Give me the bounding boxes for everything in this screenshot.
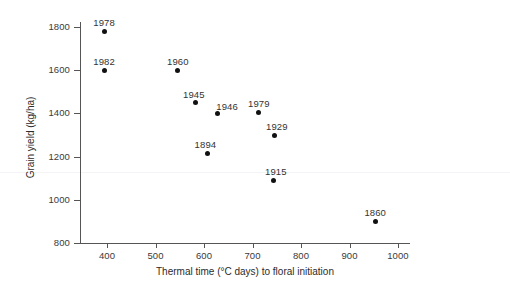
y-tick-mark: [74, 27, 80, 28]
y-tick-label: 800: [36, 237, 70, 248]
data-point-label: 1979: [248, 98, 270, 109]
y-tick-mark: [74, 200, 80, 201]
x-axis-title: Thermal time (°C days) to floral initiat…: [80, 266, 410, 277]
x-tick-mark: [253, 243, 254, 248]
data-point-label: 1929: [266, 121, 288, 132]
x-tick-mark: [204, 243, 205, 248]
data-point: [373, 219, 378, 224]
scatter-plot-figure: 80010001200140016001800 4005006007008009…: [0, 0, 510, 294]
y-tick-label: 1400: [36, 107, 70, 118]
data-point: [175, 68, 180, 73]
data-point-label: 1860: [364, 207, 386, 218]
x-tick-label: 400: [87, 250, 127, 261]
data-point-label: 1982: [93, 56, 115, 67]
y-tick-mark: [74, 157, 80, 158]
x-tick-label: 800: [281, 250, 321, 261]
y-tick-label: 1000: [36, 194, 70, 205]
y-tick-mark: [74, 113, 80, 114]
y-tick-mark: [74, 70, 80, 71]
x-tick-mark: [398, 243, 399, 248]
faint-horizontal-rule: [0, 172, 510, 173]
data-point: [102, 29, 107, 34]
data-point: [193, 100, 198, 105]
x-tick-mark: [107, 243, 108, 248]
data-point: [271, 178, 276, 183]
data-point-label: 1946: [216, 101, 238, 112]
x-tick-mark: [350, 243, 351, 248]
y-axis-title: Grain yield (kg/ha): [25, 38, 36, 238]
x-axis-line: [80, 243, 410, 244]
data-point: [205, 151, 210, 156]
y-tick-label: 1800: [36, 21, 70, 32]
x-tick-label: 700: [233, 250, 273, 261]
data-point-label: 1978: [93, 17, 115, 28]
y-tick-label: 1200: [36, 151, 70, 162]
x-tick-label: 600: [184, 250, 224, 261]
data-point: [272, 133, 277, 138]
x-tick-label: 500: [136, 250, 176, 261]
y-tick-mark: [74, 243, 80, 244]
y-tick-label: 1600: [36, 64, 70, 75]
x-tick-label: 1000: [378, 250, 418, 261]
data-point-label: 1915: [265, 166, 287, 177]
y-axis-line: [80, 22, 81, 244]
x-tick-mark: [156, 243, 157, 248]
data-point-label: 1894: [195, 139, 217, 150]
data-point-label: 1960: [167, 56, 189, 67]
data-point: [256, 110, 261, 115]
data-point: [102, 68, 107, 73]
x-tick-mark: [301, 243, 302, 248]
data-point-label: 1945: [183, 89, 205, 100]
x-tick-label: 900: [330, 250, 370, 261]
